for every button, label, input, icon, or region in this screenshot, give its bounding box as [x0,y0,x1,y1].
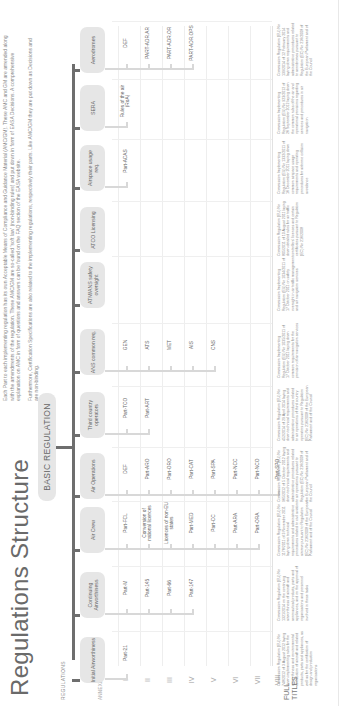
spine-tick [72,434,80,437]
category-label: Continuing Airworthiness [87,572,99,618]
regulation-full-title: Commission Regulation (EU) No 1178/2011 … [277,500,314,556]
column-divider [112,79,272,80]
regulation-part-item: Part-66 [167,566,172,610]
regulation-category-box: Air Crew [80,507,105,553]
regulation-category-box: Aerodromes [80,27,105,73]
category-label: Aerodromes [90,36,96,64]
category-label: Airspace usage req. [87,145,99,191]
category-label: Air Crew [90,520,96,540]
regulation-full-title: Commission Implementing Regulation (EU) … [277,255,300,311]
regulation-part-item: PART-ADR.AR [145,21,150,65]
regulation-part-item: CNS [211,323,216,367]
regulation-part-item: Conversion of national licences [142,501,153,545]
intro-text: Each Part to each implementing regulatio… [2,31,45,401]
annex-row-line [270,26,271,666]
regulation-category-box: Airspace usage req. [80,145,105,191]
regulation-part-item: Part-NCC [233,447,238,491]
annex-numeral: VII [254,668,261,692]
regulation-full-title: Commission Regulation (EU) No 748/2012 o… [277,630,318,686]
regulation-full-title: Commission Regulation (EU) No 1321/2014 … [277,565,309,621]
annex-row-line [228,26,229,666]
basic-regulation-box: BASIC REGULATION [38,393,56,501]
regulation-part-item: Part-147 [189,566,194,610]
category-label: Air Operations [90,459,96,492]
regulation-full-title: Commission Implementing Regulation (EU) … [277,322,300,378]
column-divider [112,139,272,140]
annex-row-line [206,26,207,666]
column-divider [112,256,272,257]
annex-numeral: VI [232,668,239,692]
regulation-category-box: Air Operations [80,453,105,499]
annex-row-line [184,26,185,666]
regulation-part-item: ATS [145,323,150,367]
category-label: Third country operators [87,392,99,438]
intro-paragraph-2: Furthermore, Certification Specification… [27,31,40,401]
annex-numeral: V [210,668,217,692]
regulation-part-item: Part-SPA [211,447,216,491]
spine-tick [72,614,80,617]
regulation-category-box: SERA [80,85,105,131]
spine-tick [72,249,80,252]
category-label: ATM/ANS safety oversight [87,262,99,308]
column-divider [112,201,272,202]
spine-tick [72,187,80,190]
annex-numeral: II [144,668,151,692]
column-divider [112,386,272,387]
basic-regulation-connector [56,446,73,449]
regulation-part-item: Licences of non-EU states [164,501,175,545]
regulation-part-item: Rules of the air (RoA) [120,79,131,123]
footer-line [338,0,339,706]
regulation-part-item: GEN [123,323,128,367]
parts-bracket-line [105,678,127,680]
annex-numeral: III [166,668,173,692]
column-divider [112,631,272,632]
spine-tick [72,127,80,130]
regulation-full-title: Commission Implementing Regulation (EU) … [277,78,309,134]
regulation-part-item: Part-FCL [123,501,128,545]
regulation-category-box: ATCO Licensing [80,207,105,253]
regulation-part-item: Part-MED [189,501,194,545]
annex-numeral: IV [188,668,195,692]
regulation-category-box: Initial Airworthiness [80,637,105,683]
regulation-part-item: AIS [189,323,194,367]
parts-bracket-line [105,126,127,128]
regulation-part-item: DEF [123,447,128,491]
regulation-part-item: Part-ART [145,386,150,430]
regulation-full-title: Commission Regulation (EU) No 805/2011 o… [277,200,305,256]
regulation-part-item: Part-ACAS [123,139,128,183]
parts-bracket-line [105,370,215,372]
regulation-full-title: Commission Regulation (EU) No 965/2012 o… [277,446,314,502]
category-label: ANS common req. [90,331,96,373]
spine-tick [72,679,80,682]
category-label: SERA [90,101,96,115]
page-title: Regulations Structure [6,459,34,696]
regulation-part-item: Part-ARA [233,501,238,545]
category-label: Initial Airworthiness [90,638,96,682]
regulation-part-item: Part-CC [211,501,216,545]
regulation-part-item: Part-ARO [145,447,150,491]
regulation-part-item: Part-ORA [255,501,260,545]
regulation-part-item: PART-ADR.OR [167,21,172,65]
regulation-full-title: Commission Regulation (EU) No 139/2014 o… [277,20,314,76]
parts-bracket-line [105,186,127,188]
spine-tick [72,549,80,552]
spine-tick [72,371,80,374]
regulation-spine-line [72,64,75,660]
spine-tick [72,69,80,72]
spine-tick [72,304,80,307]
regulation-full-title: Commission Regulation (EU) No 452/2014 o… [277,385,314,441]
regulation-category-box: ANS common req. [80,329,105,375]
regulation-part-item: Part-TCO [123,386,128,430]
regulation-full-title: Commission Implementing Regulation (EU) … [277,138,309,194]
regulations-structure-diagram: Regulations Structure Each Part to each … [0,0,343,706]
annex-row-line [118,26,119,666]
annex-row-line [162,26,163,666]
regulation-part-item: Part-M [123,566,128,610]
regulation-category-box: Third country operators [80,392,105,438]
regulations-row-label: REGULATIONS [60,661,66,700]
annex-row-line [250,26,251,666]
regulation-category-box: Continuing Airworthiness [80,572,105,618]
regulation-part-item: Part-21 [123,631,128,675]
regulation-part-item: Part-145 [145,566,150,610]
category-label: ATCO Licensing [90,211,96,248]
